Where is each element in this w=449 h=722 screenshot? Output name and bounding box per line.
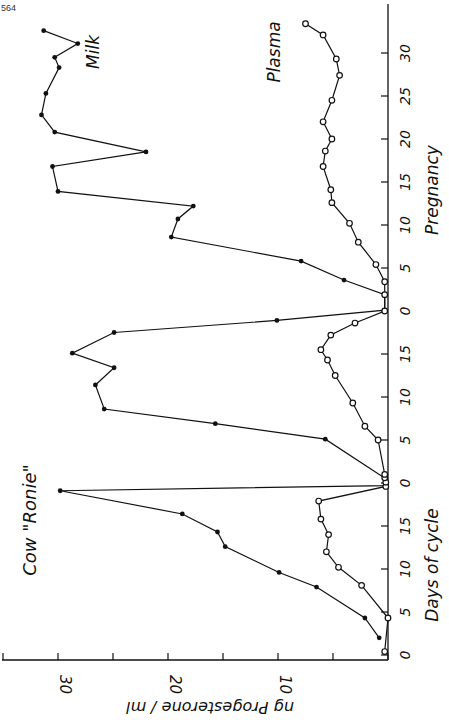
plasma-data-point: [303, 21, 309, 27]
plasma-data-point: [382, 472, 388, 478]
milk-data-point: [363, 616, 368, 621]
progesterone-chart: 102030051015051015051015202530 Days of c…: [0, 0, 449, 722]
plasma-data-point: [373, 262, 379, 268]
plasma-data-point: [347, 220, 353, 226]
plasma-data-point: [320, 164, 326, 170]
plasma-data-point: [324, 549, 330, 555]
milk-data-point: [52, 55, 57, 60]
plasma-data-point: [320, 119, 326, 125]
milk-data-point: [50, 164, 55, 169]
plasma-data-point: [318, 516, 324, 522]
day-tick-label: 10: [397, 216, 413, 234]
day-tick-label: 0: [397, 478, 413, 487]
day-tick-label: 15: [397, 173, 413, 191]
value-tick-label: 10: [276, 675, 294, 694]
day-tick-label: 15: [397, 345, 413, 363]
milk-data-point: [314, 585, 319, 590]
plasma-data-point: [336, 564, 342, 570]
plasma-data-point: [334, 56, 340, 62]
milk-data-point: [377, 635, 382, 640]
day-tick-label: 10: [397, 388, 413, 406]
cow-ronie-label: Cow "Ronie": [19, 464, 40, 576]
day-tick-label: 5: [397, 263, 413, 272]
day-tick-label: 20: [397, 130, 413, 148]
milk-data-point: [93, 383, 98, 388]
plasma-data-point: [318, 347, 324, 353]
milk-label: Milk: [83, 34, 103, 69]
milk-data-point: [180, 512, 185, 517]
plasma-data-point: [350, 400, 356, 406]
plasma-data-point: [328, 332, 334, 338]
plasma-data-point: [352, 320, 358, 326]
plasma-data-point: [329, 136, 335, 142]
milk-data-point: [299, 259, 304, 264]
plasma-data-point: [328, 187, 334, 193]
plasma-data-point: [382, 279, 388, 285]
plasma-data-point: [382, 308, 388, 314]
plasma-data-point: [329, 98, 335, 104]
milk-data-point: [215, 530, 220, 535]
plasma-data-point: [329, 200, 335, 206]
plasma-series: [303, 21, 391, 654]
milk-series: [39, 28, 388, 640]
milk-data-point: [56, 189, 61, 194]
milk-data-point: [112, 330, 117, 335]
day-tick-label: 0: [397, 650, 413, 659]
milk-data-point: [342, 278, 347, 283]
milk-data-point: [41, 28, 46, 33]
milk-data-point: [144, 150, 149, 155]
milk-data-point: [277, 570, 282, 575]
milk-data-point: [169, 235, 174, 240]
plasma-data-point: [316, 498, 322, 504]
chart-labels: Days of cyclePregnancyCow "Ronie"MilkPla…: [19, 21, 442, 716]
milk-data-point: [176, 217, 181, 222]
plasma-data-point: [362, 423, 368, 429]
milk-data-point: [275, 318, 280, 323]
plasma-data-point: [382, 292, 388, 298]
plasma-line: [306, 24, 389, 652]
plasma-data-point: [375, 437, 381, 443]
value-axis-title: ng Progesterone / ml: [126, 698, 294, 717]
milk-data-point: [223, 544, 228, 549]
pregnancy-label: Pregnancy: [422, 144, 442, 235]
milk-data-point: [44, 91, 49, 96]
milk-data-point: [70, 351, 75, 356]
day-tick-label: 5: [397, 607, 413, 616]
plasma-data-point: [382, 649, 388, 655]
milk-data-point: [213, 421, 218, 426]
day-tick-label: 15: [397, 517, 413, 535]
day-tick-label: 30: [397, 44, 413, 62]
plasma-data-point: [385, 615, 391, 621]
plasma-data-point: [325, 357, 331, 363]
plasma-data-point: [320, 32, 326, 38]
plasma-data-point: [326, 532, 332, 538]
milk-data-point: [39, 113, 44, 118]
days-of-cycle-label: Days of cycle: [422, 508, 442, 622]
milk-data-point: [323, 437, 328, 442]
milk-line: [42, 31, 386, 638]
milk-data-point: [52, 130, 57, 135]
value-tick-label: 20: [166, 675, 184, 694]
day-tick-label: 10: [397, 560, 413, 578]
milk-data-point: [191, 204, 196, 209]
day-tick-label: 0: [397, 306, 413, 315]
milk-data-point: [102, 407, 107, 412]
day-tick-label: 5: [397, 435, 413, 444]
chart-axes: 102030051015051015051015202530: [2, 4, 413, 694]
day-tick-label: 25: [397, 87, 413, 105]
plasma-data-point: [323, 148, 329, 154]
plasma-data-point: [356, 239, 362, 245]
milk-data-point: [75, 41, 80, 46]
value-tick-label: 30: [56, 675, 74, 694]
plasma-data-point: [359, 583, 365, 589]
plasma-data-point: [332, 373, 338, 379]
milk-data-point: [112, 365, 117, 370]
plasma-data-point: [337, 73, 343, 79]
milk-data-point: [58, 488, 63, 493]
plasma-label: Plasma: [264, 21, 284, 82]
milk-data-point: [57, 65, 62, 70]
